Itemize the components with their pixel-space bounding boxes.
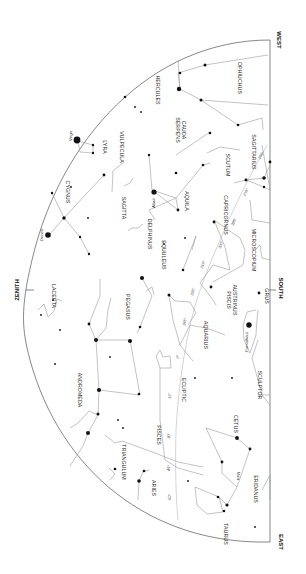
label-east: EAST [278,534,284,550]
svg-text:330°: 330° [190,287,196,296]
svg-text:0°: 0° [176,354,181,359]
label-aquila: AQUILA [184,191,190,211]
star-deneb [45,232,51,238]
label-west: WEST [276,31,282,49]
label-austrinus: AUSTRINUS [232,285,238,316]
label-fomalhaut: Fomalhaut [244,331,249,352]
svg-text:315°: 315° [200,260,206,269]
label-ecliptic: ECLIPTIC [181,378,187,402]
label-pisces: PISCES [156,425,162,445]
star-altair [151,189,156,194]
label-hercules: HERCULES [155,75,161,104]
label-zenith: ZENITH [14,279,20,301]
label-aries: ARIES [151,480,157,497]
star-vega [74,137,81,144]
label-ophiuchus: OPHIUCHUS [237,62,243,94]
label-cetus: CETUS [233,415,239,434]
label-mira: Mira [236,472,241,481]
svg-text:45°: 45° [167,465,171,471]
label-capricornus: CAPRICORNUS [223,195,229,235]
label-piscis: PISCIS [226,291,232,309]
star-fomalhaut [246,322,251,327]
label-cygnus: CYGNUS [65,181,71,204]
star-mira [225,503,228,506]
label-cauda: CAUDA [181,121,187,140]
svg-text:345°: 345° [182,317,188,326]
label-taurus: TAURUS [223,523,229,545]
label-vega: Vega [68,130,73,140]
label-pegasus: PEGASUS [125,294,131,320]
label-south: SOUTH [278,278,284,299]
label-vulpecula: VULPECULA [119,131,125,163]
label-andromeda: ANDROMEDA [77,373,83,408]
label-triangulum: TRIANGULUM [121,444,127,479]
label-grus: GRUS [264,288,270,304]
label-sculptor: SCULPTOR [257,371,263,400]
svg-text:15°: 15° [168,392,173,399]
svg-text:285°: 285° [230,217,237,227]
svg-text:60°: 60° [168,494,172,500]
svg-text:300°: 300° [218,240,225,249]
label-equuleus: EQUULEUS [161,240,167,270]
label-aquarius: AQUARIUS [203,321,209,349]
label-sagittarius: SAGITTARIUS [251,134,257,170]
label-delphinus: DELPHINUS [147,219,153,250]
label-deneb: Deneb [39,228,44,241]
label-eridanus: ERIDANUS [253,475,259,503]
label-microscopium: MICROSCOPIUM [251,229,257,272]
label-scutum: SCUTUM [225,154,231,177]
label-lyra: LYRA [102,140,108,154]
label-altair: Altair [151,198,156,209]
label-sagitta: SAGITTA [121,197,127,220]
svg-text:30°: 30° [167,433,171,439]
label-serpens: SERPENS [175,117,181,143]
star-chart: ZENITH WEST SOUTH EAST HERCULES OPHIUCHU… [0,0,306,574]
label-lacerta: LACERTA [51,284,57,309]
